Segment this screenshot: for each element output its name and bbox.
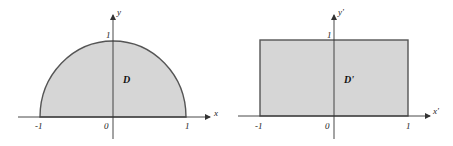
right-diagram: y' 1 D' x' -1 0 1 [238, 7, 440, 139]
origin-label: 0 [104, 121, 109, 131]
x-axis-label: x [213, 108, 218, 118]
x-tick-1: 1 [185, 121, 190, 131]
x-prime-tick-neg1: -1 [255, 121, 263, 131]
region-label-d-prime: D' [343, 74, 354, 85]
x-prime-tick-1: 1 [406, 121, 411, 131]
x-tick-neg1: -1 [35, 121, 43, 131]
left-diagram: y 1 D x -1 0 1 [18, 7, 218, 139]
y-tick-1: 1 [106, 30, 111, 40]
x-prime-axis-label: x' [432, 106, 440, 116]
origin-prime-label: 0 [325, 121, 330, 131]
diagram-canvas: y 1 D x -1 0 1 y' 1 D' x' -1 0 1 [0, 0, 453, 146]
y-prime-tick-1: 1 [327, 30, 332, 40]
y-axis-label: y [116, 7, 121, 17]
y-prime-axis-label: y' [337, 7, 345, 17]
region-label-d: D [122, 74, 130, 85]
